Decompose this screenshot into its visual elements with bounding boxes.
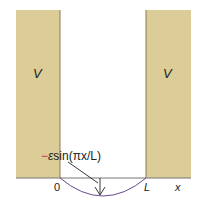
axis-label-x: x bbox=[174, 181, 181, 193]
origin-label: 0 bbox=[54, 181, 60, 193]
right-wall bbox=[146, 10, 191, 178]
pointer-arrow-line bbox=[68, 162, 98, 183]
right-wall-label: V bbox=[163, 66, 173, 81]
well-width-label: L bbox=[144, 181, 150, 193]
perturbation-label: −εsin(πx/L) bbox=[41, 149, 101, 163]
infinite-well-diagram: V V −εsin(πx/L) 0 L x bbox=[0, 0, 201, 207]
sine-term: sin(πx/L) bbox=[53, 149, 101, 163]
left-wall-label: V bbox=[33, 66, 43, 81]
perturbation-curve bbox=[60, 178, 146, 196]
minus-sign: − bbox=[41, 149, 48, 163]
